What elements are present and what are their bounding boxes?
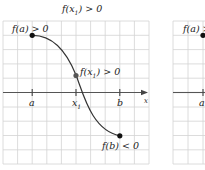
label-fa-positive: f(a) > 0 — [11, 23, 49, 34]
title-fx1-positive: f(x1) > 0 — [61, 3, 102, 16]
label-fx1-positive: f(x1) > 0 — [79, 66, 120, 79]
tick-label-a: a — [29, 97, 35, 108]
label-fb-negative: f(b) < 0 — [101, 140, 139, 151]
point-fb — [117, 133, 122, 138]
figure: x a x1 b f(x1) > 0 f(a) > 0 f(x1) > 0 f(… — [0, 0, 205, 170]
point-fx1 — [73, 73, 78, 78]
left-x-axis — [3, 89, 148, 96]
right-label-fa: f(a) > — [182, 23, 205, 34]
right-tick-label-a: a — [199, 97, 205, 108]
axis-arrow-icon — [141, 90, 148, 95]
tick-label-x1: x1 — [72, 97, 81, 110]
tick-label-b: b — [117, 97, 123, 108]
x-axis-label: x — [144, 97, 148, 105]
